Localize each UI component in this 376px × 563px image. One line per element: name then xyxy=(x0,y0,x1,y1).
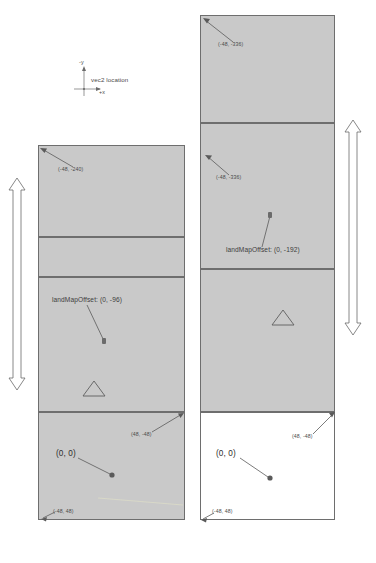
legend-axis-y-label: -y xyxy=(79,60,84,65)
right-corner-top-right-label: (48, -48) xyxy=(292,434,313,439)
right-upper-corner-label: (-48, -336) xyxy=(216,175,241,180)
right-corner-bottom-left-label: (-48, 48) xyxy=(212,509,233,514)
right-dimension-label: LAND_CHUNK_SIZE * (LAND_CHUNKS - 1.5) = … xyxy=(351,148,357,283)
right-cell-0 xyxy=(200,15,335,123)
legend-axis-x-label: +x xyxy=(99,90,105,95)
right-cell-2 xyxy=(200,269,335,412)
right-origin-label: (0, 0) xyxy=(216,450,236,458)
left-corner-top-left-label: (-48, -240) xyxy=(58,167,83,172)
left-cell-3 xyxy=(38,412,185,520)
left-dimension-label: LAND_CHUNK_SIZE * (LAND_CHUNKS - 1.5) = … xyxy=(15,206,21,341)
right-offset-label: landMapOffset: (0, -192) xyxy=(226,247,300,254)
right-corner-top-left-label: (-48, -336) xyxy=(218,42,243,47)
left-corner-bottom-left-label: (-48, 48) xyxy=(53,509,74,514)
left-cell-1 xyxy=(38,237,185,277)
left-origin-label: (0, 0) xyxy=(56,450,76,458)
left-offset-label: landMapOffset: (0, -96) xyxy=(52,297,122,304)
left-corner-top-right-label: (48, -48) xyxy=(131,432,152,437)
left-cell-0 xyxy=(38,145,185,237)
legend-caption: vec2 location xyxy=(91,77,128,83)
diagram-canvas: -y +x vec2 location (-48, -240) landMapO… xyxy=(0,0,376,563)
right-cell-3 xyxy=(200,412,335,520)
